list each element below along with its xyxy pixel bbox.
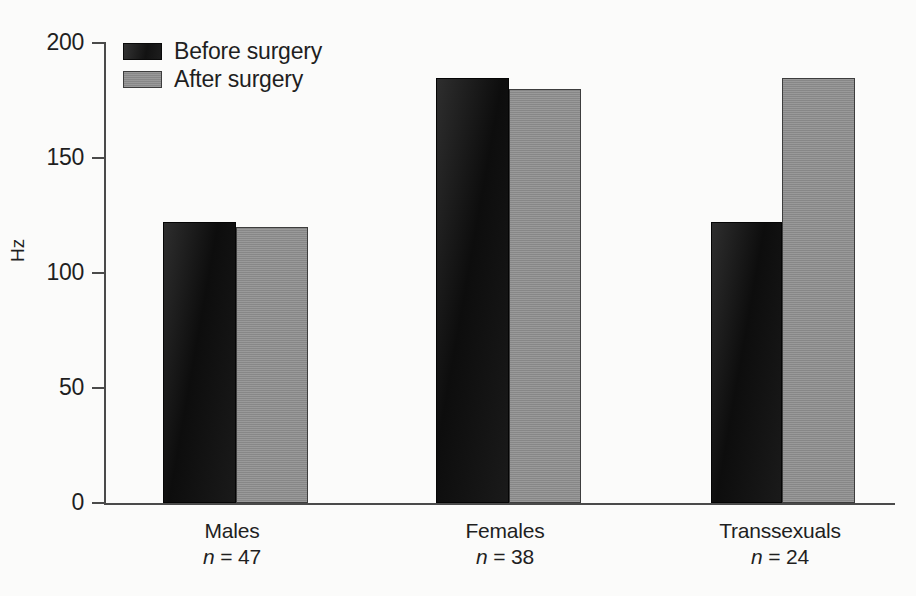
n-value: = 38 [488,545,534,568]
x-group-n-females: n = 38 [375,544,635,570]
x-group-name-males: Males [204,519,259,542]
y-tick-100 [92,272,105,274]
x-group-name-transsexuals: Transsexuals [719,519,841,542]
legend-item-after-surgery: After surgery [123,68,322,91]
bar-transsexuals-before [711,222,782,503]
y-tick-label-50: 50 [38,376,84,399]
y-tick-label-200: 200 [38,31,84,54]
n-value: = 47 [215,545,261,568]
x-group-name-females: Females [465,519,544,542]
y-tick-0 [92,502,105,504]
plot-area [105,43,895,503]
n-symbol: n [476,545,487,568]
n-symbol: n [203,545,214,568]
legend-item-before-surgery: Before surgery [123,40,322,63]
legend-label-after-surgery: After surgery [174,68,303,91]
dark-square-swatch-icon [123,43,162,60]
x-group-n-males: n = 47 [102,544,362,570]
y-tick-150 [92,157,105,159]
y-tick-label-150: 150 [38,146,84,169]
y-tick-200 [92,42,105,44]
chart-legend: Before surgery After surgery [123,40,322,96]
x-group-label-females: Females n = 38 [375,518,635,570]
y-axis-title: Hz [8,239,27,262]
bar-transsexuals-after [782,78,855,504]
bar-females-after [509,89,581,503]
bar-males-after [236,227,308,503]
legend-label-before-surgery: Before surgery [174,40,322,63]
x-axis-line [104,503,895,505]
bar-females-before [436,78,509,504]
n-symbol: n [751,545,762,568]
y-tick-label-0: 0 [38,491,84,514]
y-tick-label-100: 100 [38,261,84,284]
y-tick-50 [92,387,105,389]
n-value: = 24 [763,545,809,568]
x-group-n-transsexuals: n = 24 [650,544,910,570]
x-group-label-transsexuals: Transsexuals n = 24 [650,518,910,570]
x-group-label-males: Males n = 47 [102,518,362,570]
bar-males-before [163,222,236,503]
y-tick-label-group: 200 150 100 50 0 [32,0,84,596]
gray-square-swatch-icon [123,71,162,88]
chart-figure: 200 150 100 50 0 Hz Before surgery After… [0,0,916,596]
